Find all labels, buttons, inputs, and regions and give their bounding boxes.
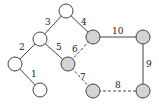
edge-label-3: 3	[45, 17, 51, 27]
edge-label-4: 4	[81, 17, 87, 27]
node-c	[8, 57, 22, 71]
edge-label-1: 1	[31, 69, 37, 79]
node-e	[61, 57, 75, 71]
graph-diagram: 1 2 3 4 5 6 7 8 9 10	[0, 0, 159, 106]
edge-label-5: 5	[56, 42, 62, 52]
node-a	[59, 4, 73, 18]
edge-label-8: 8	[115, 80, 121, 90]
node-h	[86, 84, 100, 98]
node-g	[136, 30, 150, 44]
node-d	[33, 83, 47, 97]
node-b	[33, 32, 47, 46]
edge-label-9: 9	[146, 59, 152, 69]
node-i	[136, 84, 150, 98]
edge-label-7: 7	[80, 72, 86, 82]
edge-label-10: 10	[112, 26, 124, 36]
edge-label-6: 6	[72, 44, 78, 54]
edge-label-2: 2	[19, 42, 25, 52]
node-f	[86, 30, 100, 44]
